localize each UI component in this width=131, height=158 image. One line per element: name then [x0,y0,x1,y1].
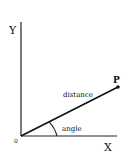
polar-diagram: Y X 0 P distance angle [0,0,131,158]
x-axis-label: X [104,141,112,154]
origin-label: 0 [14,137,18,144]
point-p-marker [116,85,120,89]
angle-label: angle [62,125,82,133]
distance-label: distance [63,91,93,99]
point-p-label: P [113,75,120,85]
y-axis-label: Y [8,24,17,37]
angle-arc [49,122,57,136]
